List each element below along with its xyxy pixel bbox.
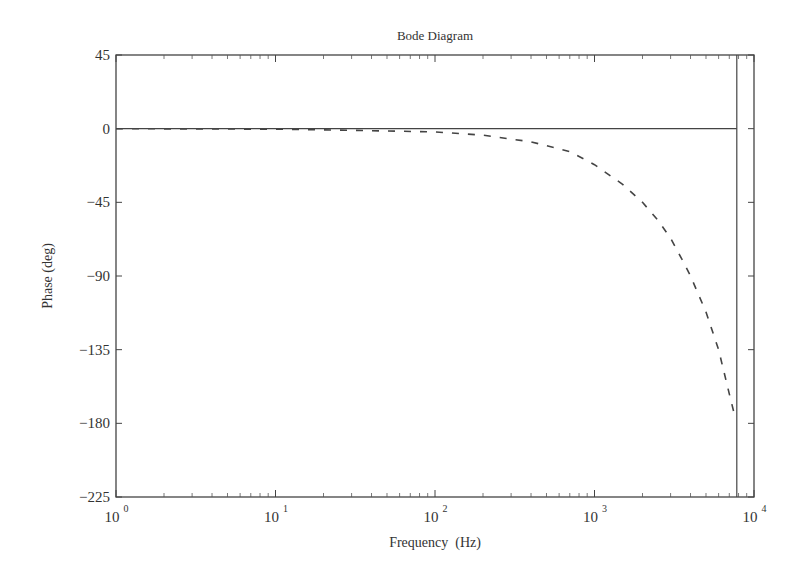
x-axis: 100101102103104	[105, 55, 767, 525]
plot-frame	[116, 55, 754, 497]
y-tick-label: −225	[79, 489, 110, 505]
x-tick-exponent: 3	[602, 503, 607, 514]
phase-dashed-line	[116, 129, 735, 417]
x-tick-label: 10	[424, 509, 439, 525]
y-tick-label: 0	[103, 121, 111, 137]
x-axis-label: Frequency (Hz)	[389, 535, 481, 551]
y-tick-label: −90	[87, 268, 110, 284]
chart-title: Bode Diagram	[397, 28, 473, 43]
y-axis-label: Phase (deg)	[40, 243, 56, 309]
y-tick-label: 45	[95, 47, 110, 63]
y-tick-label: −180	[79, 415, 110, 431]
y-tick-label: −45	[87, 194, 110, 210]
y-tick-label: −135	[79, 342, 110, 358]
x-tick-exponent: 2	[443, 503, 448, 514]
x-tick-label: 10	[743, 509, 758, 525]
x-tick-label: 10	[583, 509, 598, 525]
y-axis: 450−45−90−135−180−225	[79, 47, 754, 505]
x-tick-exponent: 4	[762, 503, 767, 514]
x-tick-exponent: 0	[124, 503, 129, 514]
x-tick-label: 10	[105, 509, 120, 525]
bode-phase-chart: Bode Diagram 450−45−90−135−180−225 10010…	[0, 0, 801, 574]
x-tick-label: 10	[264, 509, 279, 525]
series-group	[116, 55, 737, 497]
x-tick-exponent: 1	[283, 503, 288, 514]
